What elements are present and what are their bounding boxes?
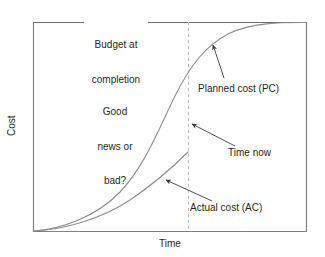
planned-cost-arrow <box>213 45 224 78</box>
time-now-leader <box>192 124 235 146</box>
earned-value-chart: Budget at completion Good news or bad? P… <box>0 0 325 257</box>
question-line-2: news or <box>78 141 152 153</box>
time-now-arrow <box>192 124 235 146</box>
time-now-annotation-label: Time now <box>228 147 271 159</box>
question-annotation: Good news or bad? <box>78 83 152 210</box>
y-axis-label: Cost <box>6 103 18 149</box>
question-line-1: Good <box>78 106 152 118</box>
chart-canvas <box>0 0 325 257</box>
budget-label-line-1: Budget at <box>78 39 154 51</box>
actual-cost-annotation-label: Actual cost (AC) <box>190 202 262 214</box>
question-line-3: bad? <box>78 175 152 187</box>
planned-cost-curve <box>34 22 306 231</box>
plot-frame <box>33 22 307 232</box>
planned-cost-annotation-label: Planned cost (PC) <box>198 83 279 95</box>
planned-cost-leader <box>213 45 224 78</box>
x-axis-label: Time <box>140 238 200 250</box>
